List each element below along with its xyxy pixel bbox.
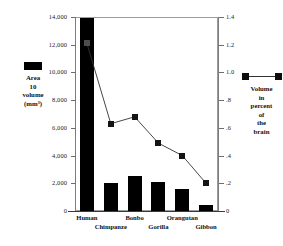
axis-tick [71,17,76,18]
axis-tick [219,45,224,46]
x-label-chimpanze: Chimpanze [95,223,127,230]
line-series [75,17,218,211]
x-label-gibbon: Gibbon [195,223,216,230]
y-axis-left [75,17,76,211]
chart-figure: Area 10 volume (mm³) Volume in percent o… [0,0,283,246]
line-marker-gorilla [155,140,161,146]
axis-tick-label: .8 [226,97,231,103]
axis-tick [71,72,76,73]
axis-tick-label: .6 [226,125,231,131]
axis-tick [219,156,224,157]
axis-tick-label: 10,000 [49,69,67,75]
axis-tick-label: .4 [226,152,231,158]
x-label-human: Human [76,214,97,221]
axis-tick-label: 1.0 [226,69,234,75]
x-label-bonbo: Bonbo [125,214,143,221]
axis-tick [219,128,224,129]
axis-tick [71,100,76,101]
axis-tick [219,100,224,101]
legend-right-line-5: brain [240,128,283,137]
legend-right-line-1: in [240,94,283,103]
line-marker-human [84,40,90,46]
axis-tick-label: 4,000 [52,152,67,158]
axis-tick-label: 2,000 [52,180,67,186]
axis-tick-label: 12,000 [49,42,67,48]
axis-tick-label: 0 [226,208,229,214]
x-axis-category-labels: HumanChimpanzeBonboGorillaOrangutanGibbo… [75,213,218,243]
axis-tick-label: 0 [64,208,67,214]
axis-tick-label: 8,000 [52,97,67,103]
axis-tick-label: 6,000 [52,125,67,131]
axis-tick-label: 14,000 [49,14,67,20]
axis-tick-label: .2 [226,180,231,186]
legend-volume-percent-brain: Volume in percent of the brain [240,72,283,137]
axis-tick [219,183,224,184]
axis-tick [219,72,224,73]
bar-swatch-icon [24,62,42,70]
line-path [75,17,218,211]
line-marker-chimpanze [108,121,114,127]
legend-right-line-4: the [240,119,283,128]
legend-left-line-1: 10 [4,83,62,92]
axis-tick [71,156,76,157]
x-label-gorilla: Gorilla [148,223,168,230]
axis-tick [71,45,76,46]
line-marker-bonbo [132,114,138,120]
legend-right-line-3: of [240,111,283,120]
line-marker-orangutan [179,153,185,159]
axis-tick-label: 1.4 [226,14,234,20]
legend-right-line-0: Volume [240,85,283,94]
legend-right-line-2: percent [240,102,283,111]
axis-tick [219,17,224,18]
line-marker-gibbon [203,180,209,186]
axis-tick [71,183,76,184]
axis-tick [71,128,76,129]
x-axis [68,211,225,212]
line-swatch-icon [242,72,282,81]
axis-tick-label: 1.2 [226,42,234,48]
x-label-orangutan: Orangutan [167,214,198,221]
y-axis-right [218,17,219,211]
